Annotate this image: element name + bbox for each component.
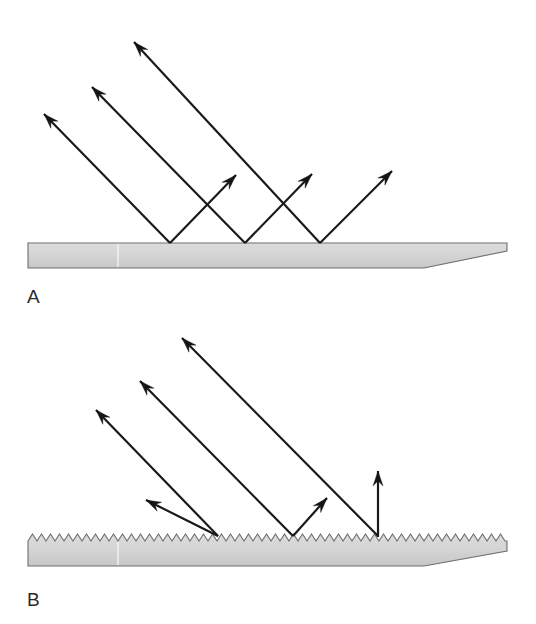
smooth-surface-shape [28,243,507,268]
rough-surface-slab [28,534,507,566]
reflected-ray-1 [146,500,218,536]
incident-ray-3 [134,42,320,243]
incident-ray-3 [182,338,378,536]
panel-b: B [27,338,507,610]
smooth-surface-slab [28,243,507,268]
incident-ray-2 [92,87,245,243]
incident-ray-1 [44,114,170,243]
panel-b-rays [96,338,383,537]
panel-label-b: B [27,589,40,610]
reflection-diagram: A B [0,0,536,624]
panel-label-a: A [27,286,40,307]
incident-ray-2 [140,381,293,536]
figure-root: A B [0,0,536,624]
reflected-ray-3 [320,171,392,243]
rough-surface-shape [28,534,507,566]
reflected-ray-1 [170,175,236,243]
panel-a: A [27,42,507,307]
reflected-ray-2 [245,174,312,243]
incident-ray-1 [96,410,218,536]
panel-a-rays [44,42,392,243]
